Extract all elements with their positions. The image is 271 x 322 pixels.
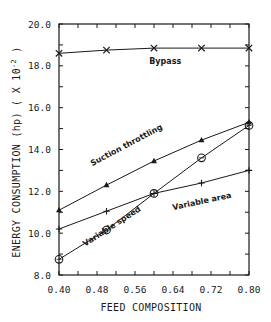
x-tick-label: 0.64: [162, 284, 185, 295]
plus-marker-icon: [56, 226, 62, 232]
x-tick-label: 0.80: [238, 284, 261, 295]
y-tick-label: 10.0: [28, 228, 51, 239]
plus-marker-icon: [198, 180, 204, 186]
plus-marker-icon: [103, 208, 109, 214]
y-tick-label: 16.0: [28, 102, 51, 113]
series-label-bypass: Bypass: [149, 57, 181, 66]
y-tick-label: 20.0: [28, 19, 51, 30]
y-tick-label: 12.0: [28, 186, 51, 197]
x-tick-labels: 0.400.480.560.640.720.80: [48, 284, 261, 295]
triangle-marker-icon: [56, 207, 62, 212]
series-markers: [55, 45, 253, 263]
series-label-variable-area: Variable area: [172, 191, 233, 212]
x-axis-title: FEED COMPOSITION: [100, 302, 201, 313]
x-tick-label: 0.56: [124, 284, 147, 295]
series-lines: [59, 48, 249, 259]
y-tick-labels: 8.010.012.014.016.018.020.0: [28, 19, 51, 281]
y-tick-label: 8.0: [34, 270, 51, 281]
y-tick-label: 14.0: [28, 144, 51, 155]
x-tick-label: 0.72: [200, 284, 223, 295]
x-tick-label: 0.48: [86, 284, 109, 295]
series-label-variable-speed: Variable speed: [81, 204, 142, 248]
plus-marker-icon: [246, 167, 252, 173]
energy-consumption-chart: 0.400.480.560.640.720.80 8.010.012.014.0…: [0, 0, 271, 322]
y-axis-title: ENERGY CONSUMPTION (hp) ( X 10-2 ): [10, 46, 22, 257]
x-tick-label: 0.40: [48, 284, 71, 295]
y-tick-label: 18.0: [28, 60, 51, 71]
